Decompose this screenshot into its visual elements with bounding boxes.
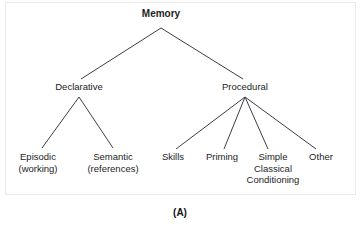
node-semantic-sublabel: (references) — [68, 163, 158, 175]
node-procedural: Procedural — [195, 81, 295, 93]
tree-edges — [0, 0, 362, 237]
edge-declarative-to-semantic — [79, 97, 113, 148]
node-memory-label: Memory — [111, 8, 211, 20]
node-declarative: Declarative — [29, 81, 129, 93]
node-classical-label: Classical — [233, 163, 313, 175]
node-episodic: Episodic (working) — [0, 151, 78, 174]
edge-procedural-to-simple-classical-conditioning — [245, 97, 268, 149]
figure-caption: (A) — [140, 207, 220, 218]
edge-memory-to-procedural — [161, 28, 243, 79]
node-episodic-sublabel: (working) — [0, 163, 78, 175]
node-procedural-label: Procedural — [195, 81, 295, 93]
edge-procedural-to-other — [245, 97, 316, 149]
figure-caption-label: (A) — [173, 207, 187, 218]
node-declarative-label: Declarative — [29, 81, 129, 93]
memory-taxonomy-figure: Memory Declarative Procedural Episodic (… — [0, 0, 362, 237]
node-other: Other — [291, 151, 351, 163]
node-other-label: Other — [291, 151, 351, 163]
node-episodic-label: Episodic — [0, 151, 78, 163]
edge-memory-to-declarative — [81, 28, 161, 79]
node-conditioning-label: Conditioning — [233, 174, 313, 186]
edge-declarative-to-episodic — [42, 97, 79, 148]
node-memory: Memory — [111, 8, 211, 20]
